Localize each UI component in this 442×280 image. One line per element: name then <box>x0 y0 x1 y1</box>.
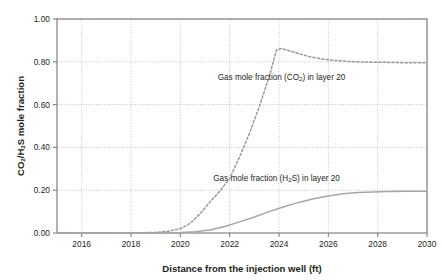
x-tick-label: 2028 <box>368 239 387 249</box>
chart-canvas: 0.000.200.400.600.801.00 201620182020202… <box>0 0 442 280</box>
y-tick-label: 1.00 <box>34 14 51 24</box>
x-tick-label: 2020 <box>171 239 190 249</box>
y-tick-label: 0.00 <box>34 228 51 238</box>
chart-background <box>0 0 442 280</box>
y-tick-label: 0.80 <box>34 57 51 67</box>
y-tick-label: 0.40 <box>34 142 51 152</box>
x-tick-label: 2030 <box>418 239 437 249</box>
x-tick-label: 2018 <box>122 239 141 249</box>
h2s-annotation: Gas mole fraction (H2S) in layer 20 <box>213 174 340 183</box>
x-tick-label: 2016 <box>72 239 91 249</box>
co2-annotation: Gas mole fraction (CO2) in layer 20 <box>218 73 346 82</box>
y-tick-label: 0.60 <box>34 100 51 110</box>
chart-figure: 0.000.200.400.600.801.00 201620182020202… <box>0 0 442 280</box>
x-tick-label: 2026 <box>319 239 338 249</box>
x-axis-title: Distance from the injection well (ft) <box>162 263 321 274</box>
x-tick-label: 2022 <box>220 239 239 249</box>
y-tick-label: 0.20 <box>34 185 51 195</box>
x-tick-label: 2024 <box>270 239 289 249</box>
x-axis-title-text: Distance from the injection well (ft) <box>162 263 321 274</box>
